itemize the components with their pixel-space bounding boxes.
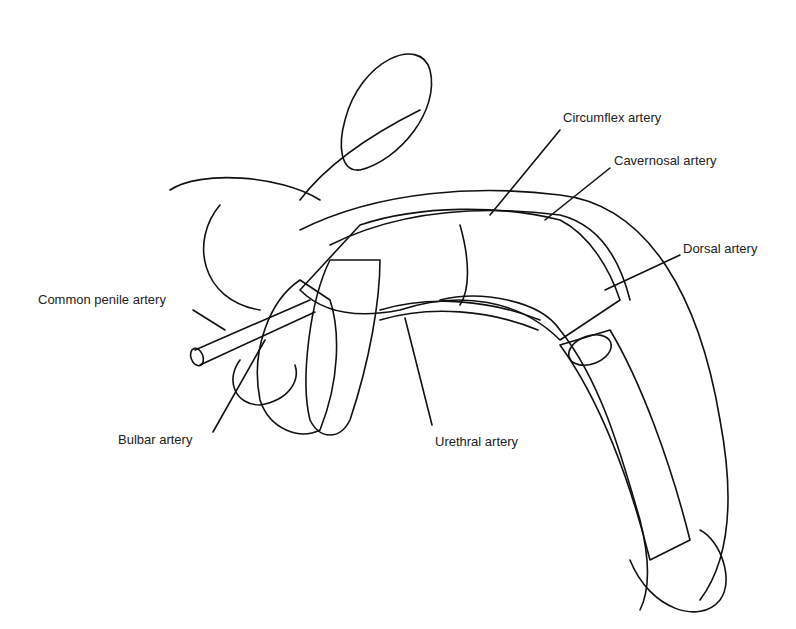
label-bulbar-artery: Bulbar artery <box>118 432 192 447</box>
bulb-spongiosum <box>257 280 336 434</box>
label-common-penile-artery: Common penile artery <box>38 292 166 307</box>
leader-urethral <box>405 318 432 425</box>
obturator-outline <box>341 54 431 170</box>
label-dorsal-artery: Dorsal artery <box>683 241 757 256</box>
dorsal-vessel <box>330 210 630 300</box>
pubic-symphysis-outline <box>204 205 260 310</box>
pubic-outline <box>170 178 320 200</box>
leader-circumflex <box>490 130 560 215</box>
circumflex-vessel <box>460 225 468 305</box>
bulb-lower <box>233 360 296 405</box>
corpus-cavernosum <box>300 209 620 340</box>
anatomy-illustration <box>0 0 796 629</box>
bone-arc <box>300 110 420 200</box>
shaft-cross-section <box>565 329 616 370</box>
leader-common-penile <box>193 310 225 330</box>
label-urethral-artery: Urethral artery <box>435 434 518 449</box>
label-circumflex-artery: Circumflex artery <box>563 110 661 125</box>
urethra-lower <box>380 311 538 330</box>
leader-dorsal <box>605 255 680 290</box>
shaft-outer-outline <box>300 191 728 600</box>
common-penile-artery-vessel <box>195 300 310 350</box>
label-cavernosal-artery: Cavernosal artery <box>614 153 717 168</box>
crus <box>306 260 380 435</box>
